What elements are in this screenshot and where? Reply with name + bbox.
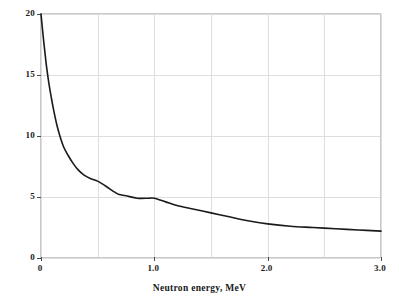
- data-curve: [41, 14, 382, 259]
- x-axis-tick-label: 1.0: [133, 263, 173, 273]
- x-axis-tick-label: 0: [20, 263, 60, 273]
- x-axis-tick-label: 2.0: [247, 263, 287, 273]
- y-axis-tick-label: 10: [5, 130, 35, 140]
- y-axis-tick-label: 5: [5, 191, 35, 201]
- y-axis-tick-label: 20: [5, 8, 35, 18]
- y-axis-tick-label: 0: [5, 252, 35, 262]
- x-axis-tick-label: 3.0: [360, 263, 399, 273]
- x-axis-title: Neutron energy, MeV: [0, 283, 399, 293]
- plot-area: [40, 13, 381, 258]
- y-axis-tick-label: 15: [5, 69, 35, 79]
- chart-figure: 05101520 01.02.03.0 Neutron energy, MeV …: [0, 0, 399, 305]
